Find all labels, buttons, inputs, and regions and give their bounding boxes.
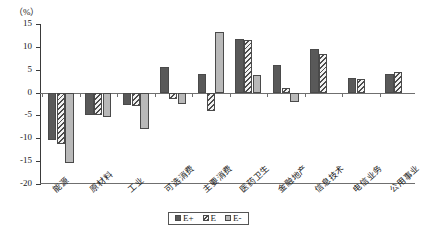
legend-swatch-icon-e-plus xyxy=(175,215,181,221)
x-axis-tick xyxy=(117,93,118,97)
x-axis-tick xyxy=(267,93,268,97)
bar xyxy=(244,40,252,93)
bar xyxy=(132,93,140,107)
bar xyxy=(357,79,365,92)
y-axis-line xyxy=(40,24,41,184)
bar xyxy=(215,32,223,92)
bar xyxy=(94,93,102,115)
bar xyxy=(198,74,206,92)
bar xyxy=(235,39,243,92)
bar xyxy=(348,78,356,93)
bar xyxy=(207,93,215,112)
bar xyxy=(57,93,65,144)
bar xyxy=(65,93,73,163)
legend-label-e-plus: E+ xyxy=(183,213,194,223)
bar xyxy=(253,75,261,92)
legend-item-e-plus: E+ xyxy=(175,213,194,223)
bar xyxy=(85,93,93,115)
bar xyxy=(123,93,131,106)
bar xyxy=(290,93,298,102)
y-axis-tick-label: -15 xyxy=(4,155,32,166)
x-axis-tick xyxy=(42,93,43,97)
chart-legend: E+ E E- xyxy=(168,212,249,225)
y-axis-tick: -10 xyxy=(36,138,41,139)
legend-item-e: E xyxy=(203,213,217,223)
bar xyxy=(169,93,177,100)
bar xyxy=(310,49,318,93)
bar xyxy=(282,88,290,93)
x-axis-tick xyxy=(192,93,193,97)
x-axis-tick xyxy=(155,93,156,97)
bar xyxy=(140,93,148,130)
legend-item-e-minus: E- xyxy=(225,213,242,223)
bar xyxy=(160,67,168,93)
legend-label-e: E xyxy=(211,213,217,223)
y-axis-unit-label: （%） xyxy=(14,5,40,18)
y-axis-tick-label: 15 xyxy=(4,18,32,29)
x-axis-tick xyxy=(230,93,231,97)
x-axis-tick xyxy=(380,93,381,97)
bar xyxy=(273,65,281,93)
y-axis-tick: -15 xyxy=(36,161,41,162)
y-axis-tick: 5 xyxy=(36,70,41,71)
x-axis-tick xyxy=(80,93,81,97)
legend-swatch-icon-e-minus xyxy=(225,215,231,221)
y-axis-tick: 10 xyxy=(36,47,41,48)
y-axis-tick-label: -5 xyxy=(4,109,32,120)
y-axis-tick-label: -10 xyxy=(4,132,32,143)
bar xyxy=(319,54,327,92)
y-axis-tick-label: 10 xyxy=(4,41,32,52)
x-axis-tick xyxy=(305,93,306,97)
bar-chart: （%） 151050-5-10-15-20 能源原材料工业可选消费主要消费医药卫… xyxy=(0,0,427,240)
bar xyxy=(394,72,402,92)
y-axis-tick: -20 xyxy=(36,184,41,185)
y-axis-tick-label: 0 xyxy=(4,87,32,98)
y-axis-tick-label: 5 xyxy=(4,64,32,75)
y-axis-tick: -5 xyxy=(36,115,41,116)
legend-swatch-icon-e xyxy=(203,215,209,221)
plot-area: 151050-5-10-15-20 xyxy=(40,24,415,184)
bar xyxy=(385,74,393,93)
y-axis-tick: 15 xyxy=(36,24,41,25)
y-axis-tick-label: -20 xyxy=(4,178,32,189)
bar xyxy=(178,93,186,104)
legend-label-e-minus: E- xyxy=(233,213,242,223)
x-axis-tick xyxy=(342,93,343,97)
bar xyxy=(48,93,56,141)
bar xyxy=(103,93,111,117)
